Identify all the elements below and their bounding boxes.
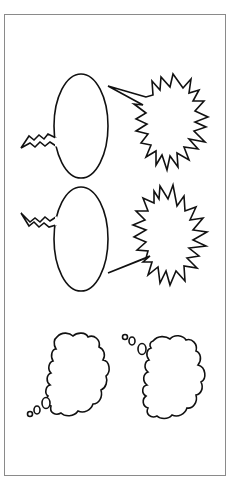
thought-bubble-1: Thought bubble 1 xyxy=(28,333,110,416)
bubbles-canvas: Electric speech bubble 1 Shout bubble 1 … xyxy=(0,0,241,498)
speech-bubble-zigzag-1: Electric speech bubble 1 xyxy=(21,74,108,178)
shout-bubble-starburst-1: Shout bubble 1 xyxy=(108,74,208,170)
speech-bubble-zigzag-2: Electric speech bubble 2 xyxy=(21,187,108,291)
shout-bubble-starburst-2: Shout bubble 2 xyxy=(108,185,207,285)
thought-bubble-2: Thought bubble 2 xyxy=(123,335,205,419)
